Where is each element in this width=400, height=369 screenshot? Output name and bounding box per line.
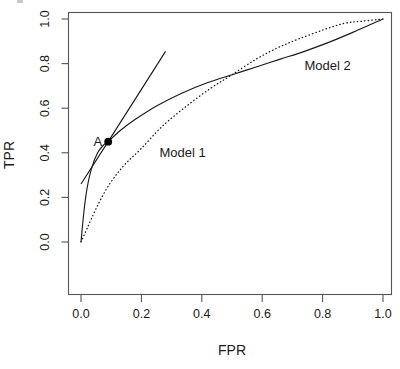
y-tick-label: 0.4 [38, 144, 52, 161]
y-tick-label: 0.8 [38, 55, 52, 72]
x-tick-label: 0.0 [72, 307, 89, 321]
x-tick-label: 0.4 [193, 307, 210, 321]
model2-label: Model 2 [304, 58, 350, 73]
point-a-label: A [93, 134, 102, 149]
y-tick-label: 0.0 [38, 233, 52, 250]
y-tick-label: 1.0 [38, 10, 52, 27]
x-tick-label: 1.0 [374, 307, 391, 321]
y-axis-title: TPR [1, 141, 17, 169]
cropped-top-artifact [17, 0, 23, 3]
x-axis-title: FPR [218, 342, 246, 358]
y-tick-label: 0.2 [38, 189, 52, 206]
x-tick-label: 0.2 [133, 307, 150, 321]
roc-curve-figure: 0.0 0.2 0.4 0.6 0.8 1.0 0.0 0.2 0.4 0.6 … [0, 0, 400, 369]
point-a-marker [104, 138, 112, 146]
model1-label: Model 1 [160, 145, 206, 160]
x-tick-label: 0.6 [254, 307, 271, 321]
y-tick-label: 0.6 [38, 99, 52, 116]
x-tick-label: 0.8 [314, 307, 331, 321]
